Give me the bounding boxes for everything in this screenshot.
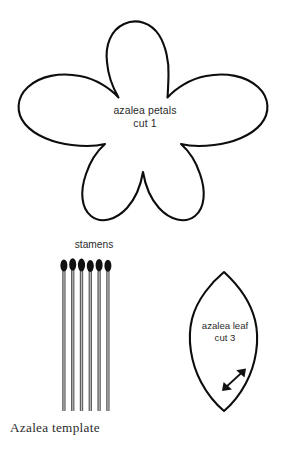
stamen	[60, 260, 67, 412]
stamen	[96, 259, 103, 411]
stamen	[69, 258, 76, 411]
azalea-leaf-label-line1: azalea leaf	[202, 320, 248, 331]
stamen	[104, 260, 111, 411]
stamens-label: stamens	[54, 239, 134, 251]
template-caption: Azalea template	[10, 420, 100, 436]
stamens-group	[60, 258, 111, 411]
template-sheet: azalea petals cut 1 azalea leaf cut 3 st…	[0, 0, 290, 449]
azalea-leaf-label: azalea leaf cut 3	[190, 320, 260, 343]
azalea-petals-label-line1: azalea petals	[113, 104, 176, 116]
azalea-petals-label: azalea petals cut 1	[0, 104, 290, 130]
azalea-petals-label-line2: cut 1	[0, 117, 290, 130]
stamen	[87, 260, 94, 411]
azalea-leaf-label-line2: cut 3	[190, 332, 260, 344]
stamen	[78, 259, 85, 411]
template-drawing	[0, 0, 290, 449]
